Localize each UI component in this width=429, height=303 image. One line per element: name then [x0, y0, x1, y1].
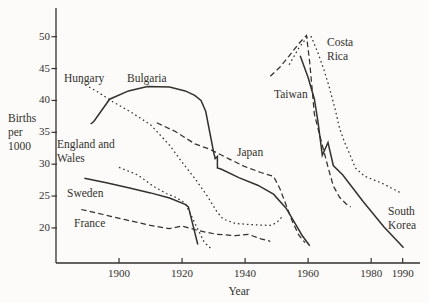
series-label-england-and-wales: England andWales	[57, 138, 115, 165]
y-tick-label-35: 35	[20, 125, 50, 137]
birth-rate-chart: Births per 1000 Year 50454035302520 1900…	[0, 0, 429, 303]
series-line-england-and-wales	[119, 167, 212, 249]
y-tick-label-30: 30	[20, 157, 50, 169]
series-label-hungary: Hungary	[64, 72, 104, 86]
series-label-france: France	[74, 217, 105, 231]
x-tick-label-1940: 1940	[228, 267, 262, 279]
y-axis-title-line1: Births	[8, 111, 36, 125]
y-tick-label-20: 20	[20, 221, 50, 233]
y-axis-title-line3: 1000	[8, 139, 31, 153]
data-series	[81, 35, 403, 249]
x-axis-title: Year	[219, 285, 259, 297]
x-tick-label-1960: 1960	[291, 267, 325, 279]
y-tick-label-40: 40	[20, 93, 50, 105]
y-tick-label-45: 45	[20, 62, 50, 74]
series-label-south-korea: SouthKorea	[388, 205, 416, 232]
x-tick-label-1900: 1900	[102, 267, 136, 279]
series-label-costa-rica: CostaRica	[327, 36, 353, 63]
series-label-bulgaria: Bulgaria	[127, 72, 167, 86]
series-label-japan: Japan	[237, 146, 263, 160]
x-tick-label-1920: 1920	[165, 267, 199, 279]
y-tick-label-50: 50	[20, 30, 50, 42]
series-label-sweden: Sweden	[67, 187, 103, 201]
series-line-france	[81, 210, 270, 242]
series-label-taiwan: Taiwan	[274, 88, 308, 102]
x-tick-label-1980: 1980	[354, 267, 388, 279]
y-tick-label-25: 25	[20, 189, 50, 201]
x-tick-label-1990: 1990	[386, 267, 420, 279]
series-line-japan	[157, 123, 305, 243]
series-line-bulgaria	[91, 86, 310, 245]
axes	[52, 8, 421, 263]
